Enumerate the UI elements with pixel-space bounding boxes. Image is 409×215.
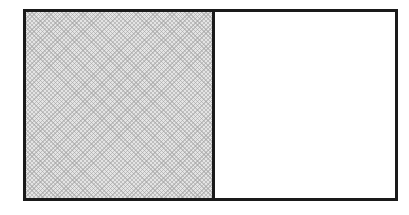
shaded-half [26,12,212,198]
outer-rectangle [23,9,398,201]
unshaded-half [215,12,395,198]
diagram-canvas [0,0,409,215]
